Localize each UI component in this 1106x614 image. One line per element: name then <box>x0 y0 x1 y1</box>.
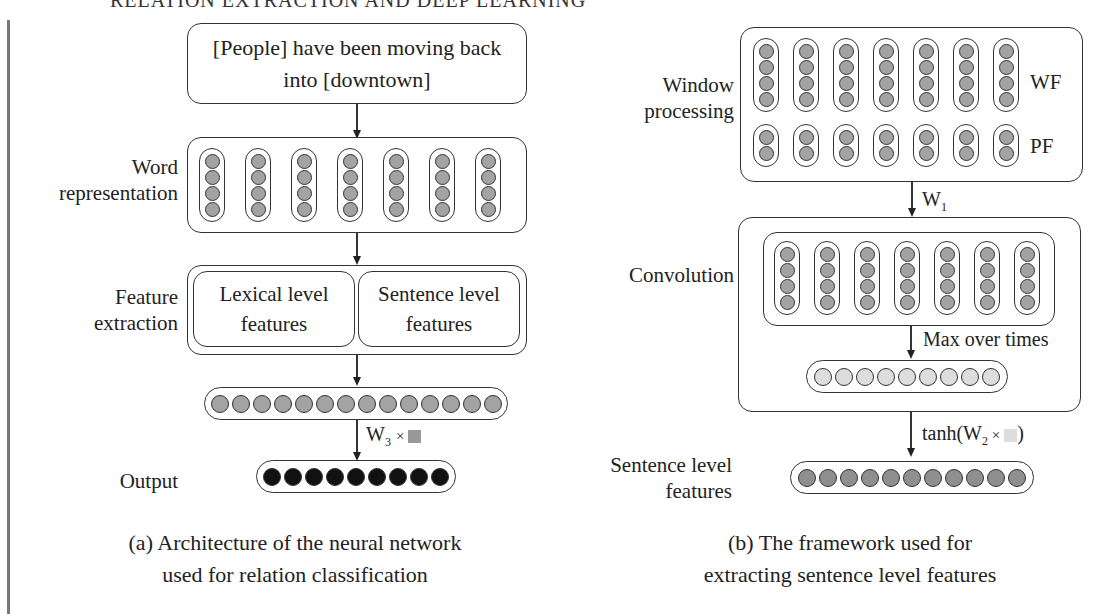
neuron <box>295 395 313 413</box>
neuron <box>860 279 875 294</box>
word-representation-box <box>187 137 527 233</box>
neuron <box>316 395 334 413</box>
word-representation-label: Word representation <box>40 154 178 206</box>
neuron <box>759 44 774 59</box>
conv-column <box>974 241 1000 315</box>
neuron <box>919 368 937 386</box>
neuron <box>987 469 1005 487</box>
neuron <box>860 263 875 278</box>
neuron <box>251 170 266 185</box>
input-sentence-line-1: [People] have been moving back <box>188 32 526 64</box>
neuron <box>481 170 496 185</box>
neuron <box>343 186 358 201</box>
neuron <box>463 395 481 413</box>
neuron <box>347 468 365 486</box>
neuron <box>999 60 1014 75</box>
neuron <box>856 368 874 386</box>
neuron <box>799 92 814 107</box>
neuron <box>840 469 858 487</box>
neuron <box>839 60 854 75</box>
arrowhead <box>907 448 915 457</box>
arrowhead <box>907 350 915 359</box>
neuron <box>839 130 854 145</box>
neuron <box>940 368 958 386</box>
margin-bar <box>7 20 10 614</box>
neuron <box>799 44 814 59</box>
neuron <box>820 263 835 278</box>
neuron <box>898 368 916 386</box>
word-vector-column <box>291 148 317 222</box>
neuron <box>1020 295 1035 310</box>
pf-label: PF <box>1030 134 1053 159</box>
arrow-line <box>910 326 912 352</box>
input-sentence-box: [People] have been moving back into [dow… <box>187 23 527 104</box>
neuron <box>980 295 995 310</box>
arrow-line <box>910 412 912 450</box>
sentence-features-box: Sentence level features <box>358 271 520 347</box>
arrowhead <box>353 256 361 265</box>
neuron <box>940 295 955 310</box>
neuron <box>879 92 894 107</box>
neuron <box>919 146 934 161</box>
neuron <box>389 154 404 169</box>
neuron <box>251 154 266 169</box>
neuron <box>205 170 220 185</box>
neuron <box>389 186 404 201</box>
pf-column <box>793 124 819 167</box>
neuron <box>759 76 774 91</box>
neuron <box>879 130 894 145</box>
arrowhead <box>908 208 916 217</box>
conv-column <box>1014 241 1040 315</box>
neuron <box>297 186 312 201</box>
arrow-line <box>356 104 358 132</box>
arrowhead <box>353 377 361 386</box>
neuron <box>389 468 407 486</box>
neuron <box>232 395 250 413</box>
neuron <box>999 130 1014 145</box>
neuron <box>959 92 974 107</box>
input-sentence-line-2: into [downtown] <box>188 64 526 96</box>
neuron <box>839 76 854 91</box>
sentence-level-features-label: Sentence level features <box>580 452 732 504</box>
caption-a: (a) Architecture of the neural network u… <box>60 527 530 591</box>
neuron <box>966 469 984 487</box>
wf-column <box>753 38 779 112</box>
neuron <box>835 368 853 386</box>
neuron <box>297 202 312 217</box>
arrow-line <box>356 355 358 379</box>
neuron <box>343 202 358 217</box>
conv-column <box>894 241 920 315</box>
feature-extraction-label: Feature extraction <box>40 284 178 336</box>
neuron <box>879 60 894 75</box>
max-over-times-label: Max over times <box>923 328 1049 351</box>
neuron <box>431 468 449 486</box>
neuron <box>759 146 774 161</box>
neuron <box>205 154 220 169</box>
light-square-icon <box>1004 429 1017 442</box>
pf-column <box>913 124 939 167</box>
neuron <box>284 468 302 486</box>
neuron <box>980 279 995 294</box>
caption-b: (b) The framework used for extracting se… <box>640 527 1060 591</box>
word-vector-column <box>383 148 409 222</box>
neuron <box>274 395 292 413</box>
neuron <box>879 76 894 91</box>
neuron <box>759 60 774 75</box>
neuron <box>205 202 220 217</box>
neuron <box>861 469 879 487</box>
neuron <box>343 154 358 169</box>
neuron <box>481 154 496 169</box>
neuron <box>759 130 774 145</box>
neuron <box>358 395 376 413</box>
conv-column <box>774 241 800 315</box>
neuron <box>251 186 266 201</box>
wf-column <box>913 38 939 112</box>
neuron <box>940 263 955 278</box>
neuron <box>442 395 460 413</box>
arrow-line <box>356 233 358 258</box>
neuron <box>982 368 1000 386</box>
wf-column <box>993 38 1019 112</box>
neuron <box>820 295 835 310</box>
neuron <box>297 170 312 185</box>
neuron <box>820 279 835 294</box>
